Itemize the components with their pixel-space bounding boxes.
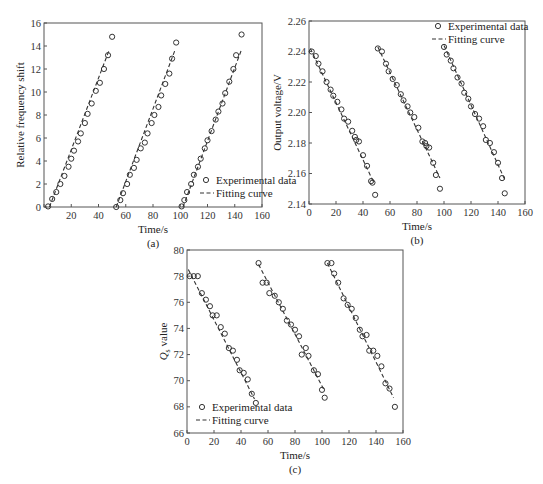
- data-point-marker: [502, 191, 507, 196]
- x-tick-label: 0: [306, 207, 311, 218]
- legend: Experimental dataFitting curve: [196, 401, 292, 426]
- y-axis-label: Relative frequency shift: [14, 62, 26, 168]
- experimental-data-points: [187, 260, 397, 409]
- chart-c-qs-value: 0204060801001201401606668707274767880Tim…: [157, 245, 411, 477]
- legend-label-experimental: Experimental data: [216, 174, 296, 186]
- fit-segment: [444, 45, 505, 179]
- data-point-marker: [198, 156, 203, 161]
- x-tick-label: 40: [93, 210, 104, 221]
- data-point-marker: [131, 165, 136, 170]
- y-tick-label: 0: [36, 202, 41, 213]
- x-tick-label: 80: [290, 436, 301, 447]
- y-tick-label: 2.20: [288, 107, 306, 118]
- y-tick-label: 74: [174, 323, 185, 334]
- data-point-marker: [346, 119, 351, 124]
- data-point-marker: [303, 345, 308, 350]
- data-point-marker: [156, 104, 161, 109]
- data-point-marker: [319, 387, 324, 392]
- y-tick-label: 2.24: [288, 46, 307, 57]
- legend-label-experimental: Experimental data: [448, 20, 528, 32]
- fitting-curve: [188, 263, 393, 399]
- data-point-marker: [234, 357, 239, 362]
- data-point-marker: [101, 66, 106, 71]
- x-tick-label: 20: [209, 436, 220, 447]
- experimental-data-points: [45, 32, 244, 210]
- x-tick-label: 100: [314, 436, 330, 447]
- data-point-marker: [375, 353, 380, 358]
- data-point-marker: [373, 192, 378, 197]
- y-tick-label: 68: [174, 401, 185, 412]
- data-point-marker: [324, 79, 329, 84]
- legend-label-fitting: Fitting curve: [212, 414, 269, 426]
- x-tick-label: 80: [412, 207, 423, 218]
- y-tick-label: 2.22: [288, 77, 306, 88]
- data-point-marker: [69, 156, 74, 161]
- data-point-marker: [349, 306, 354, 311]
- y-tick-label: 78: [174, 271, 185, 282]
- data-point-marker: [299, 352, 304, 357]
- y-tick-label: 2.14: [288, 199, 307, 210]
- y-tick-label: 4: [36, 156, 42, 167]
- data-point-marker: [234, 53, 239, 58]
- data-point-marker: [62, 173, 67, 178]
- data-point-marker: [267, 291, 272, 296]
- legend-label-fitting: Fitting curve: [448, 33, 505, 45]
- data-point-marker: [78, 131, 83, 136]
- x-tick-label: 40: [236, 436, 247, 447]
- data-point-marker: [392, 404, 397, 409]
- x-tick-label: 20: [66, 210, 77, 221]
- y-tick-label: 12: [31, 64, 42, 75]
- y-tick-label: 80: [174, 245, 185, 256]
- y-tick-label: 6: [36, 133, 41, 144]
- legend-marker-icon: [199, 404, 204, 409]
- fit-segment: [327, 263, 393, 398]
- chart-b-output-voltage: 0204060801001201401602.142.162.182.202.2…: [271, 16, 533, 248]
- x-tick-label: 140: [368, 436, 384, 447]
- y-tick-label: 16: [31, 18, 42, 29]
- fit-segment: [378, 47, 440, 178]
- legend: Experimental dataFitting curve: [432, 20, 528, 45]
- data-point-marker: [159, 93, 164, 98]
- data-point-marker: [437, 186, 442, 191]
- figure-caption: (c): [289, 463, 302, 476]
- fit-segment: [49, 49, 109, 207]
- x-tick-label: 40: [358, 207, 369, 218]
- y-tick-label: 2.16: [288, 168, 306, 179]
- y-tick-label: 2: [36, 179, 41, 190]
- legend-marker-icon: [435, 23, 440, 28]
- x-tick-label: 100: [172, 210, 188, 221]
- data-point-marker: [322, 395, 327, 400]
- y-tick-label: 72: [174, 349, 185, 360]
- x-axis-label: Time/s: [402, 220, 432, 232]
- data-point-marker: [222, 331, 227, 336]
- x-tick-label: 140: [490, 207, 506, 218]
- x-tick-label: 120: [463, 207, 479, 218]
- x-tick-label: 20: [331, 207, 342, 218]
- fit-segment: [188, 270, 254, 399]
- data-point-marker: [167, 71, 172, 76]
- figure-canvas: 204060801001201401600246810121416Time/s(…: [0, 0, 543, 484]
- data-point-marker: [152, 112, 157, 117]
- data-point-marker: [332, 271, 337, 276]
- data-point-marker: [202, 146, 207, 151]
- data-point-marker: [82, 120, 87, 125]
- data-point-marker: [383, 61, 388, 66]
- y-tick-label: 14: [31, 41, 42, 52]
- data-point-marker: [110, 34, 115, 39]
- y-tick-label: 2.18: [288, 138, 306, 149]
- data-point-marker: [239, 32, 244, 37]
- y-tick-label: 2.26: [288, 16, 306, 27]
- data-point-marker: [296, 334, 301, 339]
- data-point-marker: [481, 124, 486, 129]
- y-tick-label: 8: [36, 110, 41, 121]
- x-tick-label: 60: [385, 207, 396, 218]
- x-tick-label: 120: [341, 436, 357, 447]
- data-point-marker: [66, 164, 71, 169]
- data-point-marker: [216, 109, 221, 114]
- data-point-marker: [174, 40, 179, 45]
- experimental-data-points: [309, 44, 507, 197]
- y-tick-label: 66: [174, 428, 185, 439]
- x-tick-label: 160: [254, 210, 270, 221]
- data-point-marker: [205, 138, 210, 143]
- x-tick-label: 160: [517, 207, 533, 218]
